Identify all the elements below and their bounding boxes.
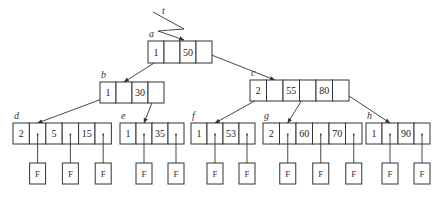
tree-node-h: h190 bbox=[366, 110, 430, 144]
failure-node: F bbox=[346, 163, 362, 184]
node-label: g bbox=[264, 110, 269, 121]
key-value: 70 bbox=[332, 128, 342, 139]
node-label: h bbox=[367, 110, 372, 121]
failure-label: F bbox=[387, 169, 392, 179]
pointer-cell bbox=[116, 82, 132, 103]
failure-label: F bbox=[318, 169, 323, 179]
failure-label: F bbox=[419, 169, 424, 179]
failure-node: F bbox=[414, 163, 430, 184]
edges-layer: t bbox=[38, 5, 390, 123]
failure-node: F bbox=[30, 163, 46, 184]
failure-label: F bbox=[285, 169, 290, 179]
pointer-cell bbox=[300, 80, 317, 101]
node-label: f bbox=[192, 110, 196, 121]
key-count: 1 bbox=[197, 128, 202, 139]
key-value: 50 bbox=[183, 47, 193, 58]
failure-node: F bbox=[62, 163, 78, 184]
b-tree-diagram: t a150b130c25580d2515e135f153g26070h190 … bbox=[0, 0, 441, 202]
failure-node: F bbox=[207, 163, 223, 184]
nodes-layer: a150b130c25580d2515e135f153g26070h190 bbox=[13, 28, 430, 144]
node-label: b bbox=[101, 69, 106, 80]
root-pointer-label: t bbox=[162, 5, 165, 16]
node-label: e bbox=[121, 110, 126, 121]
tree-node-a: a150 bbox=[148, 28, 212, 63]
failure-node: F bbox=[136, 163, 152, 184]
failure-node: F bbox=[239, 163, 255, 184]
failure-label: F bbox=[173, 169, 178, 179]
failure-label: F bbox=[351, 169, 356, 179]
key-value: 55 bbox=[286, 85, 296, 96]
failure-label: F bbox=[244, 169, 249, 179]
tree-node-c: c25580 bbox=[250, 67, 349, 101]
key-value: 60 bbox=[299, 128, 309, 139]
key-count: 1 bbox=[126, 128, 131, 139]
pointer-cell bbox=[148, 82, 164, 103]
tree-node-b: b130 bbox=[100, 69, 164, 103]
key-count: 1 bbox=[154, 47, 159, 58]
node-label: c bbox=[251, 67, 256, 78]
pointer-cell bbox=[333, 80, 350, 101]
failure-label: F bbox=[212, 169, 217, 179]
failure-node: F bbox=[280, 163, 296, 184]
node-label: d bbox=[14, 110, 20, 121]
key-value: 35 bbox=[155, 128, 165, 139]
failure-node: F bbox=[95, 163, 111, 184]
root-pointer-arrow bbox=[153, 12, 184, 40]
failure-label: F bbox=[141, 169, 146, 179]
key-value: 15 bbox=[82, 128, 92, 139]
key-value: 5 bbox=[52, 128, 57, 139]
key-count: 1 bbox=[372, 128, 377, 139]
tree-node-d: d2515 bbox=[13, 110, 111, 144]
key-value: 90 bbox=[401, 128, 411, 139]
edge-a-c bbox=[204, 52, 275, 80]
pointer-cell bbox=[164, 41, 180, 63]
key-count: 2 bbox=[256, 85, 261, 96]
key-count: 1 bbox=[106, 87, 111, 98]
node-label: a bbox=[149, 28, 154, 39]
tree-node-e: e135 bbox=[120, 110, 184, 144]
pointer-cell bbox=[196, 41, 212, 63]
failure-label: F bbox=[101, 169, 106, 179]
failure-label: F bbox=[68, 169, 73, 179]
failure-node: F bbox=[168, 163, 184, 184]
key-value: 80 bbox=[319, 85, 329, 96]
key-value: 53 bbox=[226, 128, 236, 139]
key-count: 2 bbox=[19, 128, 24, 139]
failure-label: F bbox=[35, 169, 40, 179]
failure-node: F bbox=[313, 163, 329, 184]
tree-node-f: f153 bbox=[191, 110, 255, 144]
failure-node: F bbox=[382, 163, 398, 184]
key-count: 2 bbox=[269, 128, 274, 139]
tree-node-g: g26070 bbox=[263, 110, 362, 144]
key-value: 30 bbox=[135, 87, 145, 98]
pointer-cell bbox=[267, 80, 284, 101]
